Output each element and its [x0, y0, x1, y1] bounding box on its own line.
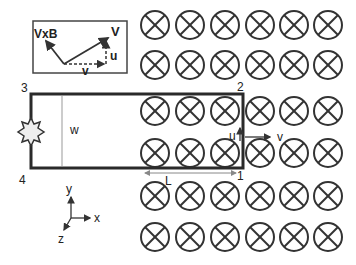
corner-4-label: 4 [19, 173, 26, 187]
vxb-label: VxB [34, 27, 58, 41]
velocity-inset: VxB V u v [33, 21, 127, 78]
conducting-loop: w L 3 2 4 1 u v [18, 80, 283, 188]
u-inset-label: u [110, 49, 117, 63]
width-label: w [69, 123, 79, 137]
corner-2-label: 2 [237, 80, 244, 94]
y-axis-label: y [66, 182, 72, 196]
diagram-canvas: VxB V u v w L 3 2 4 1 u v y x z [0, 0, 356, 265]
x-axis-label: x [94, 211, 100, 225]
bulb-star-icon [18, 118, 44, 146]
corner-3-label: 3 [21, 81, 28, 95]
v-inset-label: v [82, 64, 89, 78]
v-velocity-label: v [277, 130, 283, 144]
u-velocity-label: u [229, 129, 236, 143]
z-axis-label: z [58, 232, 64, 246]
v-total-label: V [111, 24, 120, 39]
length-label: L [165, 174, 172, 188]
coordinate-axes: y x z [58, 182, 100, 246]
corner-1-label: 1 [237, 169, 244, 183]
